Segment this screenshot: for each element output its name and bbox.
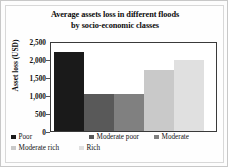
chart-title: Average assets loss in different floods … [19,10,211,31]
y-axis-tick-label: 2,000 [11,56,46,65]
y-axis-tick-label: 500 [11,110,46,119]
legend-swatch-icon [11,135,16,140]
legend-swatch-icon [11,146,16,151]
y-axis-tick-mark [46,114,50,115]
legend-label: Moderate rich [19,144,60,152]
legend-swatch-icon [154,135,159,140]
y-axis-tick-labels: 2,5002,0001,5001,0005000 [11,37,46,137]
bar-moderate-rich [144,70,174,131]
legend-item-moderate-rich[interactable]: Moderate rich [11,144,59,152]
legend-row: PoorModerate poorModerate [11,133,216,144]
legend-label: Moderate [162,133,190,141]
bar-slot [144,43,174,131]
legend-swatch-icon [79,146,84,151]
legend-label: Poor [19,133,33,141]
bar-slot [54,43,84,131]
legend-label: Moderate poor [97,133,140,141]
legend-item-poor[interactable]: Poor [11,133,32,141]
legend-swatch-icon [89,135,94,140]
bar-poor [54,52,84,131]
plot-area [50,42,217,132]
legend-item-moderate-poor[interactable]: Moderate poor [89,133,139,141]
bar-series [51,43,216,131]
y-axis-tick-mark [46,132,50,133]
bar-moderate [114,94,144,131]
y-axis-tick-label: 2,500 [11,38,46,47]
y-axis-tick-label: 1,500 [11,74,46,83]
y-axis-tick-mark [46,96,50,97]
bar-slot [84,43,114,131]
bar-rich [174,60,204,131]
y-axis-tick-mark [46,78,50,79]
bar-slot [174,43,204,131]
legend-item-rich[interactable]: Rich [79,144,100,152]
bar-moderate-poor [84,94,114,131]
legend-label: Rich [87,144,101,152]
y-axis-tick-mark [46,60,50,61]
bar-slot [114,43,144,131]
y-axis-tick-label: 1,000 [11,92,46,101]
chart-figure: Average assets loss in different floods … [0,0,228,167]
chart-legend: PoorModerate poorModerateModerate richRi… [11,133,216,159]
legend-item-moderate[interactable]: Moderate [154,133,189,141]
chart-title-line-1: Average assets loss in different floods [51,10,179,19]
legend-row: Moderate richRich [11,144,216,155]
chart-title-line-2: by socio-economic classes [71,21,159,30]
